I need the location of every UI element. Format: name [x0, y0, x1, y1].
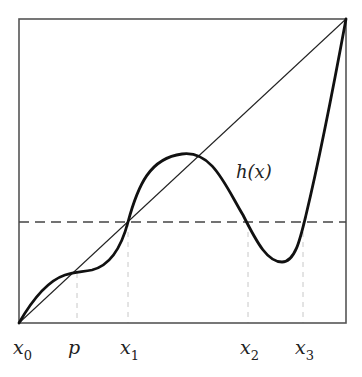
- label-x2: x2: [240, 336, 259, 363]
- label-x3: x3: [295, 336, 314, 363]
- diagonal-line: [19, 19, 346, 323]
- curve-label: h(x): [236, 161, 272, 182]
- fixed-point-diagram: h(x) x0 p x1 x2 x3: [0, 0, 362, 377]
- label-x1: x1: [120, 336, 139, 363]
- label-p: p: [68, 336, 80, 358]
- label-x0: x0: [13, 336, 32, 363]
- x-axis-labels: x0 p x1 x2 x3: [13, 336, 314, 363]
